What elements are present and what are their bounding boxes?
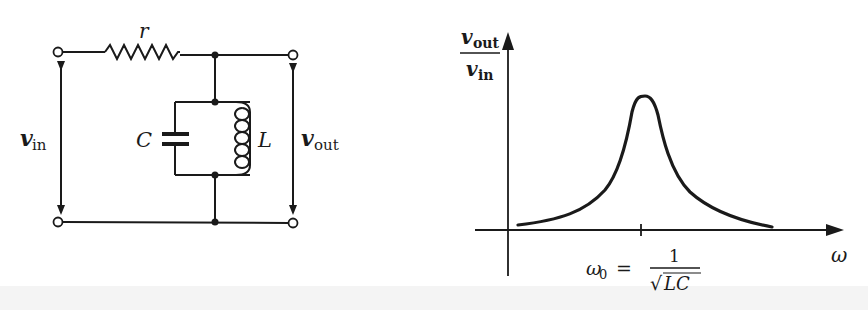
y-axis-arrow-icon xyxy=(502,32,514,50)
terminal-input-bottom xyxy=(54,218,63,227)
capacitor-label: C xyxy=(136,128,152,152)
figure: r C L v in v out v out v in ω ω 0 = 1 xyxy=(0,0,868,310)
vout-label: v out xyxy=(301,125,339,154)
frequency-response-plot xyxy=(475,32,844,276)
svg-text:LC: LC xyxy=(663,273,690,294)
inductor-label: L xyxy=(257,128,272,152)
svg-text:1: 1 xyxy=(669,246,680,266)
svg-text:out: out xyxy=(314,136,339,154)
junction-dot-tank-bottom xyxy=(212,172,219,179)
resonant-frequency-label: ω 0 = 1 √ LC xyxy=(586,246,701,294)
inductor-symbol xyxy=(235,102,250,175)
svg-text:out: out xyxy=(473,35,500,51)
terminal-output-top xyxy=(289,51,298,60)
x-axis-label: ω xyxy=(831,243,847,267)
svg-text:v: v xyxy=(301,125,314,151)
junction-dot-top xyxy=(212,52,219,59)
terminal-input-top xyxy=(54,48,63,57)
svg-text:=: = xyxy=(616,257,632,279)
svg-text:v: v xyxy=(466,57,478,81)
svg-text:√: √ xyxy=(650,272,663,294)
terminal-output-bottom xyxy=(289,219,298,228)
resonance-curve xyxy=(518,96,772,227)
svg-text:0: 0 xyxy=(599,267,607,282)
resistor-label: r xyxy=(139,19,150,43)
y-axis-label: v out v in xyxy=(460,25,500,83)
svg-text:in: in xyxy=(32,136,47,154)
x-axis-arrow-icon xyxy=(826,224,844,236)
vin-label: v in xyxy=(20,125,47,154)
junction-dot-bottom xyxy=(212,219,219,226)
resistor-symbol xyxy=(105,45,180,59)
wire-bottom-rail xyxy=(62,222,289,223)
svg-text:v: v xyxy=(461,25,473,49)
junction-dot-tank-top xyxy=(212,99,219,106)
svg-text:in: in xyxy=(478,67,494,83)
